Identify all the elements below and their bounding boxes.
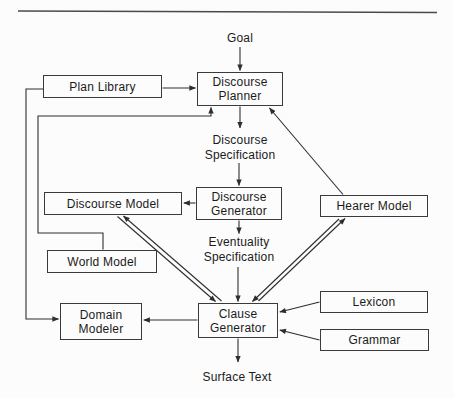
box-grammar: Grammar: [320, 329, 429, 351]
box-world-model-label: World Model: [67, 255, 136, 269]
box-discourse-model: Discourse Model: [44, 192, 182, 215]
box-grammar-label: Grammar: [348, 333, 400, 347]
label-eventuality-specification: Eventuality Specification: [189, 235, 289, 265]
box-discourse-generator-label: Discourse Generator: [197, 190, 281, 218]
box-hearer-model: Hearer Model: [320, 195, 428, 217]
label-discourse-specification: Discourse Specification: [190, 133, 290, 163]
box-discourse-generator: Discourse Generator: [196, 187, 282, 220]
box-discourse-planner: Discourse Planner: [197, 72, 283, 106]
nlg-architecture-diagram: Plan Library Discourse Planner Discourse…: [0, 0, 454, 398]
box-domain-modeler-label: Domain Modeler: [61, 308, 141, 336]
box-discourse-planner-label: Discourse Planner: [198, 75, 282, 103]
box-plan-library-label: Plan Library: [69, 80, 135, 94]
box-lexicon: Lexicon: [320, 291, 428, 313]
arrow-world-model-to-discourse-planner: [38, 108, 211, 250]
label-goal: Goal: [190, 31, 290, 46]
box-clause-generator: Clause Generator: [198, 303, 278, 338]
top-rule: [18, 11, 437, 13]
arrow-lexicon-to-clause-generator: [280, 302, 320, 312]
box-domain-modeler: Domain Modeler: [60, 303, 142, 340]
box-clause-generator-label: Clause Generator: [199, 307, 277, 335]
arrow-grammar-to-clause-generator: [280, 330, 320, 340]
label-surface-text: Surface Text: [187, 370, 287, 385]
box-world-model: World Model: [47, 250, 157, 273]
box-lexicon-label: Lexicon: [353, 295, 396, 309]
box-plan-library: Plan Library: [43, 75, 162, 98]
box-discourse-model-label: Discourse Model: [67, 197, 159, 211]
box-hearer-model-label: Hearer Model: [336, 199, 411, 213]
